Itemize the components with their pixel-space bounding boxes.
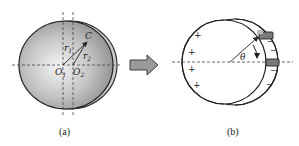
diagram-figure: C r1 r2 O1 O2 (a) + + + + − − xyxy=(0,0,299,146)
label-point-c: C xyxy=(85,31,92,41)
panel-b: + + + + − − − − θ (b) xyxy=(172,19,293,138)
transition-arrow-icon xyxy=(130,55,158,75)
svg-text:−: − xyxy=(270,66,277,75)
lower-sensor xyxy=(266,59,279,66)
svg-text:−: − xyxy=(266,80,273,89)
caption-a: (a) xyxy=(59,126,70,138)
svg-text:+: + xyxy=(188,47,196,57)
svg-text:+: + xyxy=(188,64,196,74)
label-theta: θ xyxy=(240,52,246,62)
upper-sensor-highlight xyxy=(257,30,263,34)
svg-text:+: + xyxy=(194,30,202,40)
caption-b: (b) xyxy=(227,126,239,138)
svg-text:−: − xyxy=(270,46,277,55)
panel-a: C r1 r2 O1 O2 (a) xyxy=(12,12,121,138)
svg-text:+: + xyxy=(193,80,201,90)
